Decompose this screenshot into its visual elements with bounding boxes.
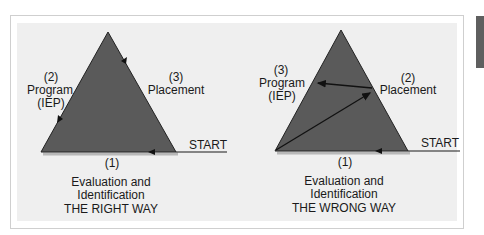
label-start: START (420, 137, 460, 150)
label-identification: Identification (299, 188, 389, 201)
label-identification: Identification (66, 189, 156, 202)
caption-wrong-way: THE WRONG WAY (284, 202, 404, 215)
label-iep: (IEP) (30, 97, 72, 110)
label-iep: (IEP) (262, 90, 302, 103)
label-placement: Placement (378, 84, 438, 97)
label-start: START (188, 139, 228, 152)
label-step-1-num: (1) (96, 157, 128, 170)
label-placement: Placement (146, 84, 206, 97)
label-step-1-num: (1) (329, 156, 361, 169)
caption-right-way: THE RIGHT WAY (56, 203, 166, 216)
